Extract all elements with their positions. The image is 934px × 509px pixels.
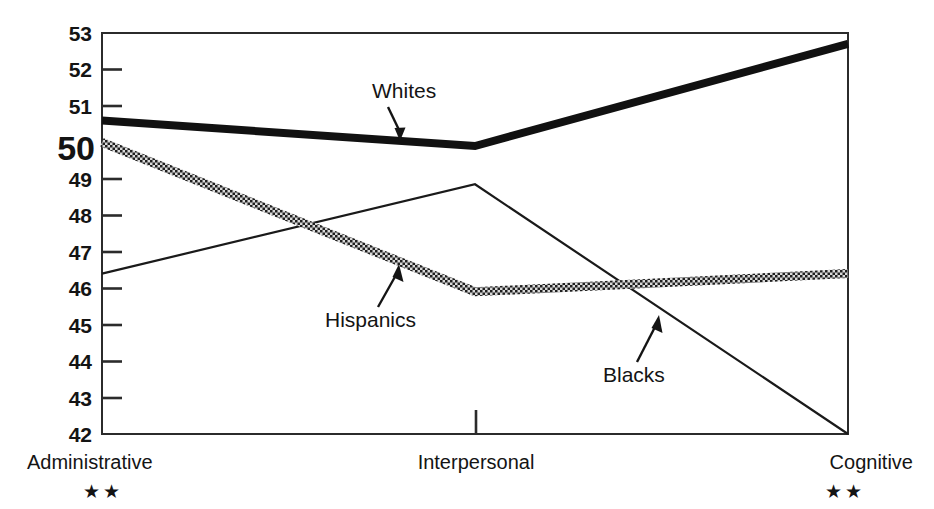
annotation-label-hispanics: Hispanics bbox=[325, 308, 416, 331]
annotation-label-whites: Whites bbox=[372, 79, 436, 102]
annotation-whites: Whites bbox=[372, 79, 436, 141]
series-line-blacks bbox=[102, 184, 848, 434]
line-chart: 53 52 51 50 49 48 47 46 45 44 43 42 Whit… bbox=[0, 0, 934, 509]
y-label-43: 43 bbox=[69, 387, 92, 410]
y-label-47: 47 bbox=[69, 241, 92, 264]
y-label-48: 48 bbox=[69, 204, 93, 227]
series-line-hispanics bbox=[102, 142, 848, 291]
significance-marks-cognitive: ★★ bbox=[825, 481, 865, 502]
annotation-blacks: Blacks bbox=[603, 315, 665, 386]
series-line-whites bbox=[102, 44, 848, 146]
x-label-interpersonal: Interpersonal bbox=[418, 451, 535, 473]
annotation-hispanics: Hispanics bbox=[325, 264, 416, 331]
chart-canvas: 53 52 51 50 49 48 47 46 45 44 43 42 Whit… bbox=[0, 0, 934, 509]
annotation-label-blacks: Blacks bbox=[603, 363, 665, 386]
y-label-49: 49 bbox=[69, 168, 92, 191]
x-label-cognitive: Cognitive bbox=[830, 451, 913, 473]
series-line-hispanics-shade bbox=[102, 142, 848, 291]
y-label-50: 50 bbox=[57, 129, 95, 167]
y-label-52: 52 bbox=[69, 58, 92, 81]
y-label-46: 46 bbox=[69, 277, 92, 300]
x-label-administrative: Administrative bbox=[27, 451, 153, 473]
y-label-42: 42 bbox=[69, 423, 92, 446]
y-label-51: 51 bbox=[69, 95, 93, 118]
y-label-44: 44 bbox=[69, 350, 93, 373]
significance-marks-administrative: ★★ bbox=[83, 481, 123, 502]
y-label-45: 45 bbox=[69, 314, 93, 337]
y-label-53: 53 bbox=[69, 22, 92, 45]
plot-frame bbox=[102, 33, 848, 434]
